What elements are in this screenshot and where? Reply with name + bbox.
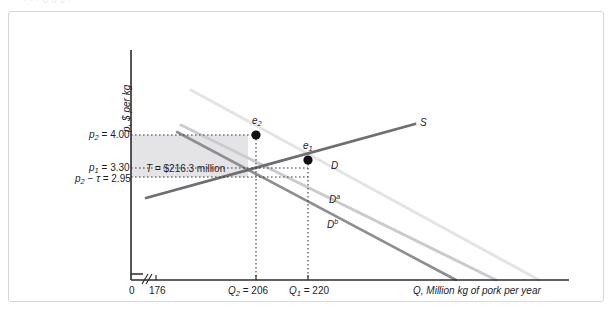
- page-top-strip: · · · 0 0 1 ·: [0, 0, 612, 9]
- curve-label-Db-sup: b: [334, 218, 338, 225]
- chart-card: p, $ per kg p2 = 4.00 p1 = 3.30 p2 − τ =…: [8, 11, 604, 302]
- x-tick-label-Q2: Q2 = 206: [228, 286, 268, 298]
- annotation-tax-revenue: T = $216.3 million: [146, 164, 225, 174]
- x-tick-Q1-value: 220: [312, 285, 329, 296]
- x-axis-title-text: Q, Million kg of pork per year: [413, 285, 541, 296]
- y-tick-value-p1: 3.30: [110, 162, 129, 173]
- x-tick-label-176: 176: [149, 286, 166, 296]
- y-tick-value-p2-minus-tau: 2.95: [111, 173, 130, 184]
- ghost-text: · · · 0 0 1 ·: [24, 0, 71, 5]
- x-tick-label-Q1: Q1 = 220: [289, 286, 329, 298]
- demand-curve-D: [191, 90, 539, 280]
- x-tick-176-text: 176: [149, 285, 166, 296]
- annotation-tax-revenue-text: = $216.3 million: [152, 163, 225, 174]
- curve-label-Da-sup: a: [336, 193, 340, 200]
- point-label-e1-sub: 1: [309, 144, 313, 153]
- y-tick-label-p2: p2 = 4.00: [89, 130, 130, 142]
- demand-curve-Db: [177, 132, 456, 280]
- x-axis-title: Q, Million kg of pork per year: [413, 286, 541, 296]
- chart-plot: [9, 12, 603, 301]
- curve-label-D-text: D: [331, 160, 338, 171]
- point-label-e2-sub: 2: [258, 119, 262, 128]
- x-tick-Q2-value: 206: [251, 285, 268, 296]
- y-tick-label-p2-minus-tau: p2 − τ = 2.95: [75, 174, 131, 186]
- curve-label-S: S: [420, 118, 427, 128]
- x-tick-label-origin: 0: [129, 286, 135, 296]
- curve-label-S-text: S: [420, 117, 427, 128]
- point-label-e2: e2: [252, 116, 262, 128]
- point-label-e1: e1: [303, 141, 313, 153]
- x-tick-origin-text: 0: [129, 285, 135, 296]
- y-axis-title-text: p, $ per kg: [121, 85, 132, 132]
- point-e1: [303, 155, 312, 164]
- y-axis-title: p, $ per kg: [121, 85, 132, 132]
- point-e2: [251, 130, 260, 139]
- y-tick-value-p2: 4.00: [110, 129, 129, 140]
- curve-label-Db: Db: [327, 218, 338, 230]
- curve-label-Da: Da: [329, 193, 340, 205]
- curve-label-D: D: [331, 161, 338, 171]
